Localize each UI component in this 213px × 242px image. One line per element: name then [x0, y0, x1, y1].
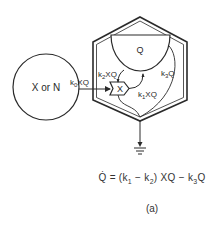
x-label: X: [117, 84, 123, 94]
k1-flow-label: k1XQ: [138, 90, 157, 100]
source-label: X or N: [32, 82, 60, 93]
k2-flow-label: k2XQ: [98, 70, 117, 80]
rate-equation: Q̇ = (k1 − k2) XQ − k3Q: [96, 172, 208, 185]
sink-arrowhead: [138, 142, 143, 147]
figure-caption: (a): [96, 203, 208, 214]
k3-flow-label: k3Q: [161, 69, 175, 79]
x-loss-curve: [118, 95, 140, 117]
q-label: Q: [136, 45, 143, 55]
ground-icon: [134, 148, 146, 154]
k0-flow-label: k0XQ: [70, 78, 89, 88]
k1-flow-arc: [129, 74, 143, 89]
